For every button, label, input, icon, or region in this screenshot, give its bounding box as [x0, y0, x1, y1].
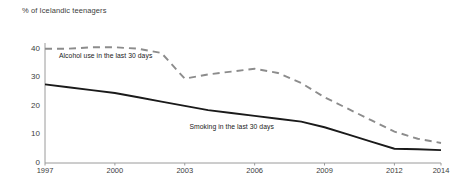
series-label-alcohol-use: Alcohol use in the last 30 days — [59, 52, 152, 59]
y-axis-tick-label: 10 — [18, 129, 40, 138]
chart-container: % of Icelandic teenagers 010203040 19972… — [0, 0, 457, 186]
y-axis-tick-label: 30 — [18, 72, 40, 81]
chart-plot-area — [0, 0, 457, 186]
x-axis-tick-label: 2009 — [305, 166, 345, 175]
x-axis-tick-label: 2014 — [421, 166, 457, 175]
x-axis-tick-label: 2000 — [95, 166, 135, 175]
series-label-smoking: Smoking in the last 30 days — [189, 123, 273, 130]
x-axis-tick-label: 2012 — [374, 166, 414, 175]
series-line-smoking — [45, 84, 441, 150]
y-axis-tick-label: 40 — [18, 44, 40, 53]
x-axis-tick-label: 1997 — [25, 166, 65, 175]
y-axis-tick-label: 20 — [18, 101, 40, 110]
x-axis-tick-label: 2003 — [165, 166, 205, 175]
x-axis-tick-label: 2006 — [235, 166, 275, 175]
